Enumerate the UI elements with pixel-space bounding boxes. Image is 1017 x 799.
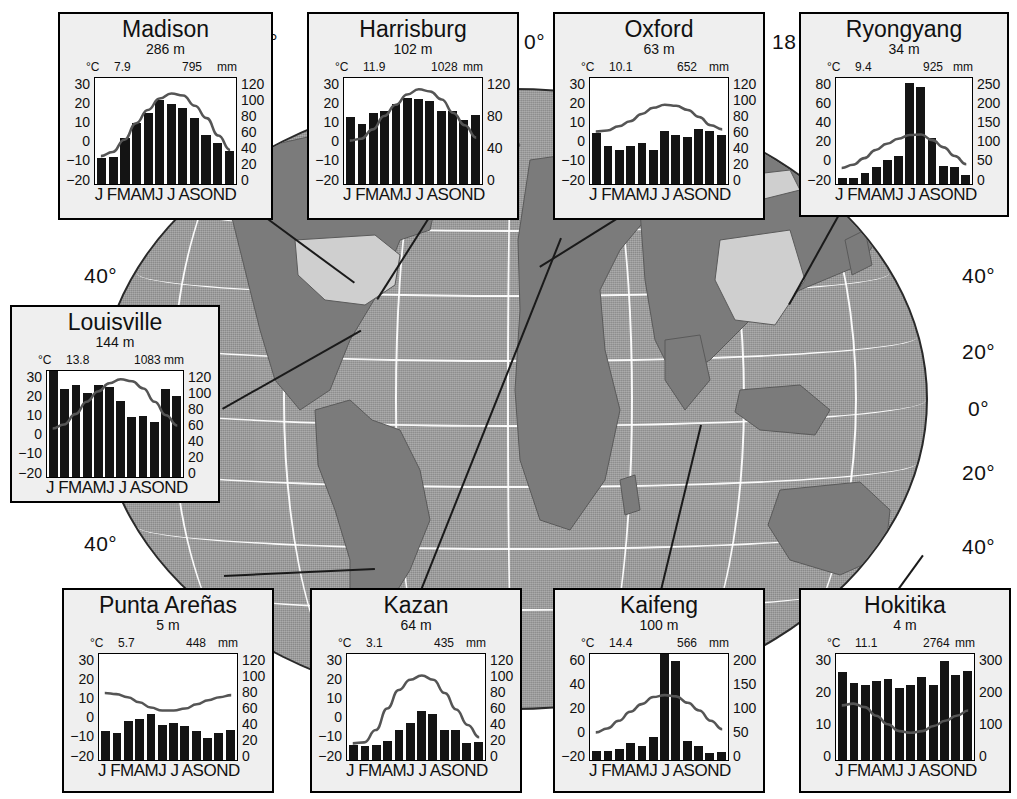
station-name: Punta Areñas (64, 593, 272, 617)
climate-panel-kazan: Kazan64 m°C3.1435mm3020100−10−2012010080… (310, 588, 522, 793)
panel-header: °C11.12764mm (801, 636, 1009, 652)
temp-axis-tick: −10 (561, 153, 585, 167)
precip-axis-tick: 200 (977, 96, 1000, 110)
precip-axis-tick: 40 (490, 717, 506, 731)
station-elevation: 102 m (309, 42, 517, 57)
temp-unit-label: °C (335, 60, 348, 74)
precip-axis: 200150100500 (731, 653, 761, 761)
precip-unit-label: mm (463, 60, 483, 74)
annual-precip-value: 795 (182, 60, 202, 74)
precip-axis-tick: 120 (490, 653, 513, 667)
panel-header: °C13.81083mm (12, 353, 218, 369)
mean-temp-value: 11.1 (855, 636, 877, 650)
precip-axis-tick: 120 (733, 77, 756, 91)
temp-axis-tick: −20 (561, 173, 585, 187)
station-name: Oxford (555, 17, 763, 41)
temp-axis-tick: 60 (569, 653, 585, 667)
plot-area (343, 77, 483, 185)
latitude-label-right-eq: 0° (968, 397, 989, 421)
climate-map-figure: 0° 0° 18 40° 40° 40° 20° 0° 20° 40° Madi… (0, 0, 1017, 799)
precip-axis-tick: 60 (242, 701, 258, 715)
temp-unit-label: °C (86, 60, 99, 74)
temp-axis: 3020100−10−20 (311, 77, 341, 185)
month-axis-labels: J FMAMJ J ASOND (98, 761, 238, 781)
annual-precip-value: 1083 (134, 353, 161, 367)
temp-axis-tick: 20 (569, 701, 585, 715)
precip-axis-tick: 40 (733, 141, 749, 155)
precip-axis-tick: 0 (487, 173, 495, 187)
plot-area (589, 77, 729, 185)
precip-axis-tick: 100 (242, 669, 265, 683)
temperature-curve (347, 654, 485, 757)
temp-axis-tick: −10 (66, 153, 90, 167)
precip-unit-label: mm (709, 636, 729, 650)
annual-precip-value: 925 (923, 60, 943, 74)
precip-axis: 120100806040200 (731, 77, 761, 185)
precip-axis-tick: 120 (241, 77, 264, 91)
temp-axis-tick: 20 (26, 389, 42, 403)
climate-panel-harrisburg: Harrisburg102 m°C11.91028mm3020100−10−20… (307, 12, 519, 220)
temp-axis-tick: 0 (823, 153, 831, 167)
temp-unit-label: °C (338, 636, 351, 650)
temp-axis-tick: 20 (815, 685, 831, 699)
month-axis-labels: J FMAMJ J ASOND (835, 185, 973, 205)
precip-axis: 120100806040200 (186, 370, 216, 478)
precip-axis-tick: 80 (490, 685, 506, 699)
temp-axis-tick: 20 (569, 96, 585, 110)
precip-axis: 12080400 (485, 77, 515, 185)
station-name: Harrisburg (309, 17, 517, 41)
temp-axis-tick: 10 (78, 691, 94, 705)
precip-axis-tick: 0 (979, 749, 987, 763)
station-name: Louisville (12, 310, 218, 334)
station-elevation: 63 m (555, 42, 763, 57)
precip-axis-tick: 20 (733, 157, 749, 171)
longitude-label-center: 0° (524, 30, 545, 54)
annual-precip-value: 435 (434, 636, 454, 650)
temp-axis-tick: −20 (315, 173, 339, 187)
precip-axis-tick: 100 (490, 669, 513, 683)
temp-axis-tick: 0 (34, 427, 42, 441)
temp-unit-label: °C (827, 636, 840, 650)
annual-precip-value: 566 (677, 636, 697, 650)
precip-axis-tick: 0 (242, 749, 250, 763)
precip-axis-tick: 120 (242, 653, 265, 667)
precip-axis-tick: 40 (487, 141, 503, 155)
temperature-curve (47, 371, 183, 474)
annual-precip-value: 652 (677, 60, 697, 74)
precip-axis-tick: 200 (733, 653, 756, 667)
precip-unit-label: mm (955, 636, 975, 650)
station-name: Kazan (312, 593, 520, 617)
panel-header: °C11.91028mm (309, 60, 517, 76)
precip-axis-tick: 0 (977, 173, 985, 187)
month-axis-labels: J FMAMJ J ASOND (46, 478, 184, 498)
station-elevation: 4 m (801, 618, 1009, 633)
temp-axis-tick: 20 (74, 96, 90, 110)
temperature-curve (344, 78, 482, 181)
annual-precip-value: 1028 (431, 60, 458, 74)
temp-axis-tick: 20 (326, 672, 342, 686)
precip-axis-tick: 120 (487, 77, 510, 91)
precip-axis-tick: 80 (733, 109, 749, 123)
plot-area (94, 77, 237, 185)
panel-header: °C9.4925mm (801, 60, 1007, 76)
precip-axis-tick: 100 (188, 386, 211, 400)
month-axis-labels: J FMAMJ J ASOND (835, 761, 975, 781)
temp-axis: 3020100−10−20 (66, 653, 96, 761)
precip-axis-tick: 100 (733, 701, 756, 715)
temp-axis-tick: 10 (815, 717, 831, 731)
precip-unit-label: mm (218, 636, 238, 650)
station-name: Ryongyang (801, 17, 1007, 41)
precip-axis-tick: 100 (241, 93, 264, 107)
precip-axis-tick: 0 (241, 173, 249, 187)
precip-axis: 120100806040200 (239, 77, 269, 185)
precip-axis-tick: 40 (188, 434, 204, 448)
landmass-10 (735, 385, 830, 435)
plot-area (589, 653, 729, 761)
temp-axis-tick: −10 (18, 446, 42, 460)
precip-axis-tick: 120 (188, 370, 211, 384)
temp-axis-tick: 30 (323, 77, 339, 91)
month-axis-labels: J FMAMJ J ASOND (589, 185, 729, 205)
precip-axis: 3002001000 (977, 653, 1007, 761)
temperature-curve (836, 654, 974, 757)
temp-axis-tick: −20 (807, 173, 831, 187)
